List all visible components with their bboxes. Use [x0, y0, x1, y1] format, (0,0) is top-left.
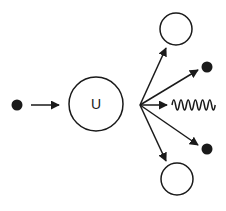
uranium-nucleus: U	[69, 77, 123, 131]
fission-diagram: U	[0, 0, 226, 211]
fragment-bottom	[161, 163, 193, 195]
incoming-neutron	[12, 100, 23, 111]
nucleus-label: U	[91, 96, 101, 112]
gamma-radiation-wave-icon	[172, 100, 215, 110]
fragment-top	[160, 13, 192, 45]
neutron-bottom	[202, 144, 213, 155]
neutron-top	[202, 62, 213, 73]
